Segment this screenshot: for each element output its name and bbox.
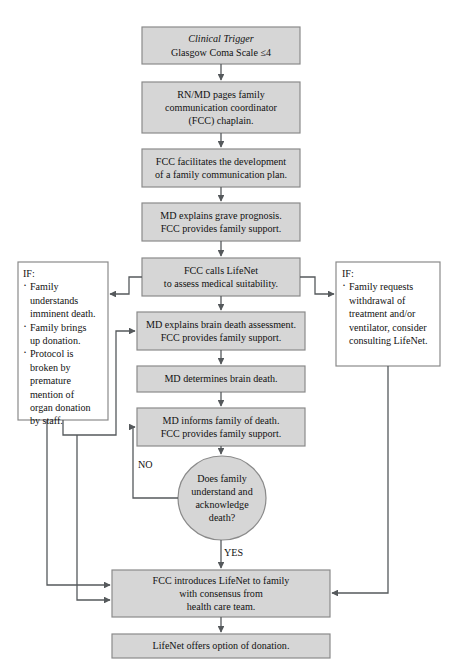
node-md-informs-family-shape bbox=[137, 408, 305, 446]
right-if-header: IF: bbox=[342, 267, 436, 280]
left-if-bullet-2: Family brings up donation. bbox=[23, 321, 104, 348]
right-if-bullet-1-line-1: Family requests bbox=[349, 281, 413, 292]
left-if-header: IF: bbox=[23, 267, 104, 280]
node-rn-md-pages-shape bbox=[142, 82, 300, 133]
edge-label-no: NO bbox=[138, 459, 153, 471]
node-fcc-facilitates-shape bbox=[142, 149, 300, 187]
left-if-bullet-3-line-5: organ donation bbox=[30, 402, 91, 413]
node-md-explains-brain-death-shape bbox=[137, 312, 305, 350]
flowchart-diagram: Clinical Trigger Glasgow Coma Scale ≤4 R… bbox=[0, 0, 458, 663]
left-if-bullet-1-line-1: Family bbox=[30, 281, 59, 292]
right-if-bullet-1-line-5: consulting LifeNet. bbox=[349, 335, 428, 346]
node-clinical-trigger-shape bbox=[142, 27, 300, 64]
node-fcc-introduces-lifenet-shape bbox=[112, 570, 330, 617]
edge-calls-lifenet-to-right-note bbox=[300, 277, 334, 294]
edge-right-note-to-introduces-lifenet bbox=[332, 366, 388, 593]
left-if-bullet-3-line-4: mention of bbox=[30, 389, 74, 400]
left-if-bullet-2-line-1: Family brings bbox=[30, 322, 86, 333]
left-if-bullet-2-line-2: up donation. bbox=[30, 335, 80, 346]
edge-label-yes: YES bbox=[224, 547, 243, 559]
node-md-determines-brain-death-shape bbox=[137, 366, 305, 392]
left-if-bullet-3-line-3: premature bbox=[30, 375, 71, 386]
note-right-if: IF: Family requests withdrawal of treatm… bbox=[336, 264, 440, 366]
edge-calls-lifenet-to-left-note bbox=[110, 277, 142, 294]
right-if-bullet-1: Family requests withdrawal of treatment … bbox=[342, 280, 436, 347]
node-lifenet-offers-option-shape bbox=[112, 634, 330, 658]
node-md-explains-prognosis-shape bbox=[142, 203, 300, 241]
right-if-bullet-1-line-4: ventilator, consider bbox=[349, 322, 427, 333]
node-decision-family-understands-shape bbox=[178, 456, 266, 540]
right-if-bullet-1-line-3: treatment and/or bbox=[349, 308, 415, 319]
left-if-bullet-1-line-2: understands bbox=[30, 295, 78, 306]
right-if-bullet-list: Family requests withdrawal of treatment … bbox=[342, 280, 436, 347]
left-if-bullet-list: Family understands imminent death. Famil… bbox=[23, 280, 104, 427]
edge-left-note-to-introduces-lifenet bbox=[47, 420, 110, 585]
left-if-bullet-3-line-1: Protocol is bbox=[30, 348, 73, 359]
node-fcc-calls-lifenet-shape bbox=[142, 258, 300, 296]
edge-return-to-introduces-lifenet bbox=[77, 435, 110, 600]
note-left-if: IF: Family understands imminent death. F… bbox=[18, 264, 108, 420]
left-if-bullet-3-line-6: by staff. bbox=[30, 415, 63, 426]
left-if-bullet-1: Family understands imminent death. bbox=[23, 280, 104, 320]
right-if-bullet-1-line-2: withdrawal of bbox=[349, 295, 405, 306]
left-if-bullet-1-line-3: imminent death. bbox=[30, 308, 96, 319]
left-if-bullet-3-line-2: broken by bbox=[30, 362, 71, 373]
left-if-bullet-3: Protocol is broken by premature mention … bbox=[23, 347, 104, 427]
